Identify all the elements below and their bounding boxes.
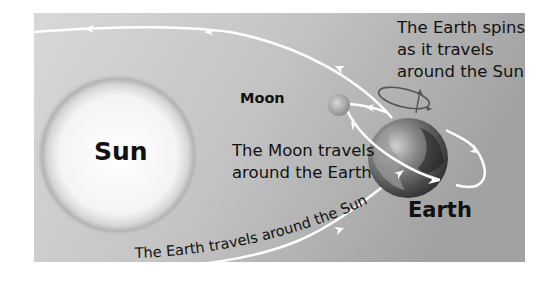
moon-body xyxy=(328,94,350,116)
moon-orbit-caption: The Moon travels around the Earth xyxy=(232,140,375,184)
earth-spin-caption: The Earth spins as it travels around the… xyxy=(397,17,525,83)
orbit-arrow-icon xyxy=(208,264,218,272)
caption-line: as it travels xyxy=(397,39,525,61)
moon-label: Moon xyxy=(240,90,285,106)
diagram-canvas: The Earth travels around the Sun Sun Moo… xyxy=(0,0,559,298)
caption-line: The Earth spins xyxy=(397,17,525,39)
caption-line: The Moon travels xyxy=(232,140,375,162)
caption-line: around the Earth xyxy=(232,162,375,184)
sun-label: Sun xyxy=(94,137,148,166)
earth-body xyxy=(368,118,448,198)
earth-label: Earth xyxy=(408,198,472,222)
caption-line: around the Sun xyxy=(397,61,525,83)
